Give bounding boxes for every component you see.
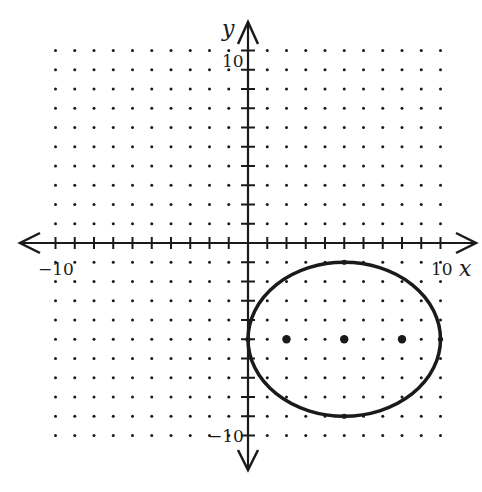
grid-dot — [189, 184, 192, 187]
grid-dot — [227, 280, 230, 283]
grid-dot — [304, 415, 307, 418]
grid-dot — [362, 107, 365, 110]
grid-dot — [112, 357, 115, 360]
grid-dot — [266, 357, 269, 360]
grid-dot — [304, 145, 307, 148]
grid-dot — [208, 319, 211, 322]
grid-dot — [131, 299, 134, 302]
grid-dot — [420, 184, 423, 187]
grid-dot — [324, 299, 327, 302]
grid-dot — [343, 49, 346, 52]
grid-dot — [93, 49, 96, 52]
grid-dot — [189, 415, 192, 418]
grid-dot — [285, 434, 288, 437]
grid-dot — [73, 376, 76, 379]
grid-dot — [285, 222, 288, 225]
grid-dot — [362, 396, 365, 399]
grid-dot — [266, 203, 269, 206]
grid-dot — [439, 415, 442, 418]
grid-dot — [362, 165, 365, 168]
grid-dot — [401, 376, 404, 379]
grid-dot — [112, 434, 115, 437]
grid-dot — [420, 376, 423, 379]
grid-dot — [285, 107, 288, 110]
coordinate-plane-figure: y x 10 −10 −10 10 — [0, 0, 482, 492]
grid-dot — [285, 357, 288, 360]
grid-dot — [401, 126, 404, 129]
grid-dot — [420, 396, 423, 399]
grid-dot — [150, 396, 153, 399]
grid-dot — [227, 203, 230, 206]
grid-dot — [150, 261, 153, 264]
grid-dot — [304, 280, 307, 283]
grid-dot — [93, 107, 96, 110]
grid-dot — [285, 203, 288, 206]
grid-dot — [381, 88, 384, 91]
grid-dot — [170, 357, 173, 360]
grid-dot — [150, 357, 153, 360]
grid-dot — [131, 396, 134, 399]
grid-dot — [54, 415, 57, 418]
grid-dot — [362, 222, 365, 225]
grid-dot — [304, 203, 307, 206]
grid-dot — [304, 357, 307, 360]
grid-dot — [93, 261, 96, 264]
grid-dot — [401, 299, 404, 302]
grid-dot — [439, 280, 442, 283]
grid-dot — [324, 49, 327, 52]
grid-dot — [324, 126, 327, 129]
grid-dot — [208, 376, 211, 379]
grid-dot — [266, 165, 269, 168]
grid-dot — [170, 338, 173, 341]
grid-dot — [170, 299, 173, 302]
grid-dot — [324, 338, 327, 341]
grid-dot — [381, 299, 384, 302]
grid-dot — [131, 415, 134, 418]
grid-dot — [54, 319, 57, 322]
grid-dot — [189, 357, 192, 360]
grid-dot — [381, 222, 384, 225]
grid-dot — [73, 203, 76, 206]
grid-dot — [401, 261, 404, 264]
grid-dot — [93, 338, 96, 341]
grid-dot — [401, 222, 404, 225]
grid-dot — [189, 49, 192, 52]
grid-dot — [189, 145, 192, 148]
grid-dot — [304, 338, 307, 341]
grid-dot — [227, 107, 230, 110]
grid-dot — [362, 319, 365, 322]
vertex-point — [245, 337, 250, 342]
grid-dot — [227, 338, 230, 341]
grid-dot — [381, 261, 384, 264]
grid-dot — [170, 319, 173, 322]
grid-dot — [208, 88, 211, 91]
grid-dot — [285, 299, 288, 302]
grid-dot — [150, 203, 153, 206]
grid-dot — [381, 319, 384, 322]
grid-dot — [420, 88, 423, 91]
grid-dot — [362, 299, 365, 302]
grid-dot — [208, 49, 211, 52]
grid-dot — [73, 68, 76, 71]
grid-dot — [131, 203, 134, 206]
grid-dot — [208, 126, 211, 129]
y-min-tick-label: −10 — [208, 426, 244, 446]
grid-dot — [324, 184, 327, 187]
grid-dot — [420, 222, 423, 225]
grid-dot — [170, 145, 173, 148]
grid-dot — [381, 145, 384, 148]
grid-dot — [324, 88, 327, 91]
grid-dot — [401, 165, 404, 168]
grid-dot — [112, 49, 115, 52]
grid-dot — [401, 145, 404, 148]
grid-dot — [208, 165, 211, 168]
grid-dot — [304, 126, 307, 129]
grid-dot — [324, 434, 327, 437]
grid-dot — [285, 68, 288, 71]
grid-dot — [150, 145, 153, 148]
grid-dot — [54, 126, 57, 129]
grid-dot — [420, 203, 423, 206]
grid-dot — [73, 126, 76, 129]
grid-dot — [343, 299, 346, 302]
grid-dot — [401, 184, 404, 187]
